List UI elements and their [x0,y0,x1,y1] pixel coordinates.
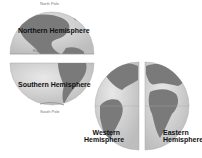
south-pole-label: South Pole [40,110,60,114]
eastern-hemisphere-label: Eastern Hemisphere [163,129,202,143]
north-pole-label: North Pole [40,2,59,6]
equator-label: Equator [33,49,47,53]
northern-hemisphere-label: Northern Hemisphere [18,27,90,34]
western-hemisphere-label: Western Hemisphere [84,129,120,143]
southern-hemisphere-label: Southern Hemisphere [18,81,91,88]
